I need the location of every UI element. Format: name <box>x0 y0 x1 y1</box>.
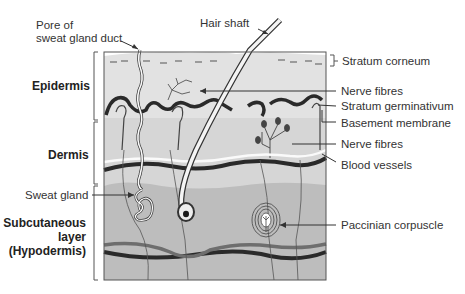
label-nerve-fibres-top: Nerve fibres <box>341 85 403 98</box>
label-blood-vessels: Blood vessels <box>341 159 412 172</box>
label-sweat-gland: Sweat gland <box>25 189 88 202</box>
label-hypodermis-line2: layer <box>3 230 86 244</box>
layer-brackets <box>94 52 98 280</box>
label-stratum-corneum: Stratum corneum <box>342 55 430 68</box>
label-pore-line2: sweat gland duct <box>36 32 122 45</box>
label-nerve-fibres-mid: Nerve fibres <box>341 138 403 151</box>
dermis-region <box>104 118 326 189</box>
label-hypodermis-line1: Subcutaneous <box>3 216 86 230</box>
label-epidermis: Epidermis <box>32 79 90 93</box>
stratum-corneum-bracket <box>330 55 338 66</box>
label-dermis: Dermis <box>48 148 89 162</box>
label-paccinian-corpuscle: Paccinian corpuscle <box>341 219 443 232</box>
label-pore-line1: Pore of <box>36 19 122 32</box>
label-basement-membrane: Basement membrane <box>341 117 451 130</box>
label-stratum-germinativum: Stratum germinativum <box>341 100 453 113</box>
label-hypodermis: Subcutaneous layer (Hypodermis) <box>3 216 86 258</box>
label-hair-shaft: Hair shaft <box>200 17 249 30</box>
label-pore-sweat-gland-duct: Pore of sweat gland duct <box>36 19 122 45</box>
label-hypodermis-line3: (Hypodermis) <box>3 244 86 258</box>
